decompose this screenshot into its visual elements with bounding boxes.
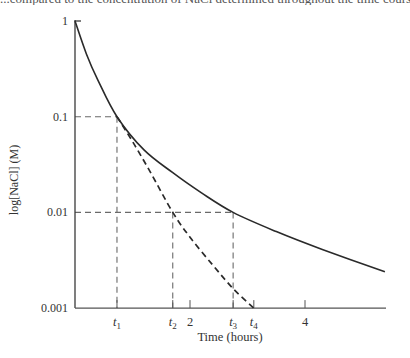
- series: [75, 21, 385, 308]
- x-tick-label: t1: [113, 315, 121, 331]
- chart: 10.10.010.001t1t22t3t44: [0, 0, 410, 358]
- axes: [75, 20, 386, 308]
- x-tick-label: 2: [187, 315, 193, 329]
- dashed-guides: [75, 117, 233, 308]
- y-tick-label: 0.1: [53, 110, 68, 124]
- y-tick-label: 0.001: [41, 301, 68, 315]
- y-tick-label: 1: [62, 14, 68, 28]
- y-axis-label: log[NaCl] (M): [7, 145, 22, 215]
- x-tick-label: t4: [250, 315, 258, 331]
- x-tick-label: t3: [229, 315, 237, 331]
- x-axis-label: Time (hours): [197, 330, 262, 345]
- solid-curve: [75, 21, 385, 272]
- x-tick-label: 4: [302, 315, 309, 329]
- y-tick-label: 0.01: [47, 205, 68, 219]
- x-tick-label: t2: [169, 315, 177, 331]
- ticks: 10.10.010.001t1t22t3t44: [41, 14, 309, 331]
